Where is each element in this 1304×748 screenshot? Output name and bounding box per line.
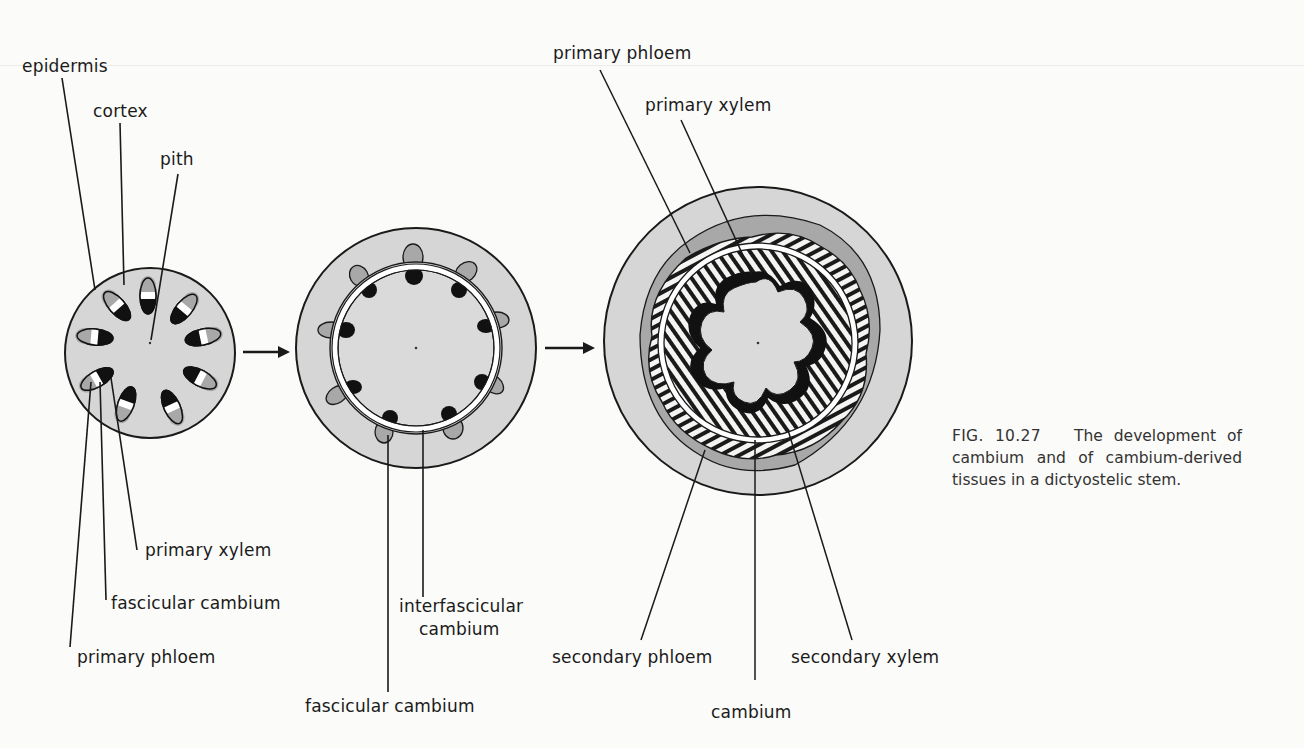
label-primary-xylem-stage3: primary xylem	[645, 96, 771, 116]
stage-3-cross-section	[600, 70, 912, 680]
label-cortex: cortex	[93, 102, 148, 122]
label-primary-xylem-stage1: primary xylem	[145, 541, 271, 561]
label-interfascicular-cambium-line1: interfascicular	[399, 597, 523, 617]
figure-number: FIG. 10.27	[952, 427, 1041, 445]
label-cambium: cambium	[711, 703, 792, 723]
label-primary-phloem-stage1: primary phloem	[77, 648, 215, 668]
label-pith: pith	[160, 150, 194, 170]
label-secondary-xylem: secondary xylem	[791, 648, 939, 668]
label-secondary-phloem: secondary phloem	[552, 648, 712, 668]
label-primary-phloem-stage3: primary phloem	[553, 44, 691, 64]
label-interfascicular-cambium-line2: cambium	[419, 620, 500, 640]
label-epidermis: epidermis	[22, 57, 108, 77]
label-fascicular-cambium-stage1: fascicular cambium	[111, 594, 281, 614]
label-fascicular-cambium-stage2: fascicular cambium	[305, 697, 475, 717]
figure-caption: FIG. 10.27 The development of cambium an…	[952, 425, 1242, 491]
